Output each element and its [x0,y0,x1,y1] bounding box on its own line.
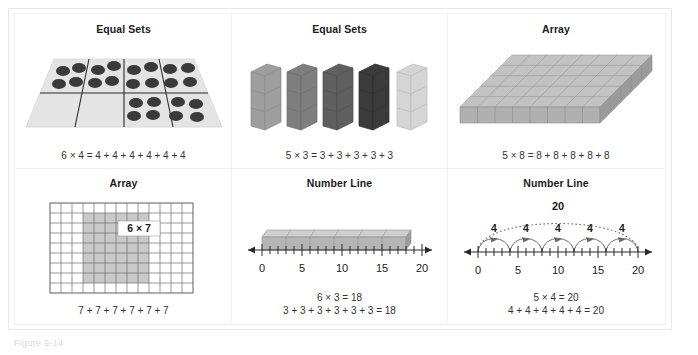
equation: 5 × 4 = 20 4 + 4 + 4 + 4 + 4 = 20 [508,291,604,323]
equation-line-1: 7 + 7 + 7 + 7 + 7 + 7 [78,305,168,316]
arc-label: 4 [619,222,625,234]
tick-label: 15 [592,264,604,276]
tower [287,64,317,130]
tick-label: 5 [515,264,521,276]
total-label: 20 [552,200,564,212]
panel-title: Equal Sets [312,23,367,35]
tick-label: 15 [375,262,387,274]
panel-number-line-bar: Number Line [232,169,448,323]
equation: 7 + 7 + 7 + 7 + 7 + 7 [78,304,168,323]
tower [397,64,427,130]
equation-line-2: 4 + 4 + 4 + 4 + 4 = 20 [508,304,604,317]
equation-line-1: 5 × 8 = 8 + 8 + 8 + 8 + 8 [502,150,609,161]
equation-line-1: 5 × 4 = 20 [533,292,578,303]
arc-label: 4 [523,222,529,234]
tower [251,64,281,130]
array-grid-figure: 6 × 7 [16,191,231,304]
panel-grid: Equal Sets [16,15,664,323]
equal-sets-dot-mat [16,37,231,149]
arc-label: 4 [587,222,593,234]
panel-title: Number Line [307,177,372,189]
number-line-bar-svg: 0 5 10 15 20 [240,200,440,282]
tick-label: 5 [298,262,304,274]
array-cube-slab [448,37,664,149]
arc-label: 4 [555,222,561,234]
tower [323,64,353,130]
equation-line-1: 6 × 3 = 18 [317,292,362,303]
arc-label: 4 [491,222,497,234]
tick-label: 0 [258,262,264,274]
panel-number-line-arcs: Number Line 20 [448,169,664,323]
equation-line-2: 3 + 3 + 3 + 3 + 3 + 3 = 18 [283,304,396,317]
tick-label: 20 [632,264,644,276]
number-line-arcs-figure: 20 [448,191,664,291]
equation-line-1: 6 × 4 = 4 + 4 + 4 + 4 + 4 + 4 [61,150,185,161]
dot-mat-svg [26,51,222,135]
number-line-bar-figure: 0 5 10 15 20 [232,191,447,291]
array-grid-svg: 6 × 7 [44,199,204,297]
tick-label: 20 [415,262,427,274]
cube-towers-svg [245,50,435,136]
array-grid-label: 6 × 7 [127,222,151,234]
panel-equal-sets-cubes: Equal Sets [232,15,448,169]
equation: 6 × 4 = 4 + 4 + 4 + 4 + 4 + 4 [61,149,185,168]
equation: 5 × 8 = 8 + 8 + 8 + 8 + 8 [502,149,609,168]
number-line-arcs-svg: 20 [456,198,656,284]
panel-array-grid: Array [16,169,232,323]
panel-title: Array [542,23,570,35]
panel-title: Number Line [523,177,588,189]
figure-caption: Figure 9-14 [14,338,63,348]
figure-container: Equal Sets [0,0,698,355]
panel-title: Equal Sets [96,23,151,35]
panel-title: Array [110,177,138,189]
equation: 5 × 3 = 3 + 3 + 3 + 3 + 3 [286,149,393,168]
tower [359,64,389,130]
panel-array-cubes: Array [448,15,664,169]
panel-equal-sets-dots: Equal Sets [16,15,232,169]
tick-label: 10 [335,262,347,274]
equation-line-1: 5 × 3 = 3 + 3 + 3 + 3 + 3 [286,150,393,161]
tick-label: 10 [552,264,564,276]
cube-towers [232,37,447,149]
tick-label: 0 [475,264,481,276]
equation: 6 × 3 = 18 3 + 3 + 3 + 3 + 3 + 3 = 18 [283,291,396,323]
array-slab-svg [456,49,656,137]
